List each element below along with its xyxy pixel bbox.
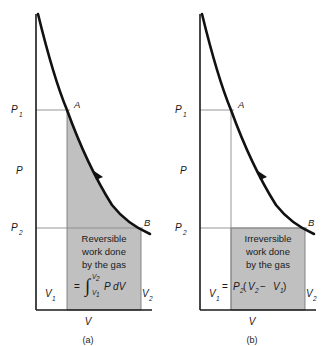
- y-axis-label-a: P: [16, 165, 23, 176]
- xtick-v2-sub-a: 2: [148, 295, 153, 302]
- formula-v2-sub-b: 2: [254, 287, 259, 294]
- ytick-p1-sub-a: 1: [19, 111, 23, 118]
- formula-equals-b: =: [222, 281, 228, 292]
- formula-close-paren-b: ): [283, 281, 286, 292]
- x-axis-label-a: V: [85, 316, 93, 327]
- point-label-b-panel-a: B: [144, 217, 151, 228]
- region-text-line1-a: Reversible: [82, 233, 127, 244]
- xtick-v2-sub-b: 2: [312, 295, 317, 302]
- ytick-p1-label-a: P: [11, 104, 18, 115]
- integral-upper-limit-sub-a: 2: [95, 275, 100, 282]
- region-text-line1-b: Irreversible: [245, 233, 292, 244]
- point-label-a-panel-a: A: [73, 99, 80, 110]
- xtick-v1-sub-a: 1: [52, 295, 56, 302]
- ytick-p2-label-b: P: [175, 222, 182, 233]
- figure-canvas: P 1 P 2 P V 1 V 2 V A B Reversible work …: [0, 0, 328, 346]
- point-label-b-panel-b: B: [308, 217, 315, 228]
- ytick-p2-label-a: P: [11, 222, 18, 233]
- ytick-p1-label-b: P: [175, 104, 182, 115]
- region-text-line2-b: work done: [245, 246, 290, 257]
- panel-b: P 1 P 2 P V 1 V 2 V A B Irreversible wor…: [175, 14, 317, 345]
- point-label-a-panel-b: A: [237, 99, 244, 110]
- region-text-line2-a: work done: [81, 246, 126, 257]
- integrand-a: P dV: [104, 281, 127, 292]
- panel-caption-b: (b): [247, 335, 258, 345]
- panel-a: P 1 P 2 P V 1 V 2 V A B Reversible work …: [11, 14, 153, 345]
- ytick-p1-sub-b: 1: [183, 111, 187, 118]
- ytick-p2-sub-b: 2: [182, 229, 187, 236]
- formula-p-b: P: [233, 281, 240, 292]
- integral-lower-limit-sub-a: 1: [96, 291, 100, 298]
- formula-equals-a: =: [74, 281, 80, 292]
- xtick-v1-sub-b: 1: [216, 295, 220, 302]
- formula-minus-b: −: [260, 281, 266, 292]
- curve-direction-arrow-b: [258, 171, 267, 180]
- ytick-p2-sub-a: 2: [18, 229, 23, 236]
- panel-caption-a: (a): [83, 335, 94, 345]
- x-axis-label-b: V: [249, 316, 257, 327]
- region-text-line3-a: by the gas: [82, 259, 126, 270]
- region-text-line3-b: by the gas: [246, 259, 290, 270]
- pv-work-figure: P 1 P 2 P V 1 V 2 V A B Reversible work …: [0, 0, 328, 346]
- y-axis-label-b: P: [180, 165, 187, 176]
- isotherm-curve-b: [202, 14, 314, 234]
